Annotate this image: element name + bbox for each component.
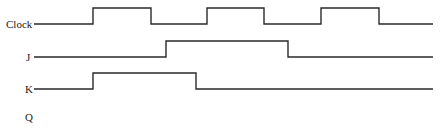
j-waveform [34,41,433,57]
waveforms [0,0,443,132]
clock-waveform [34,8,433,24]
k-waveform [34,73,433,89]
